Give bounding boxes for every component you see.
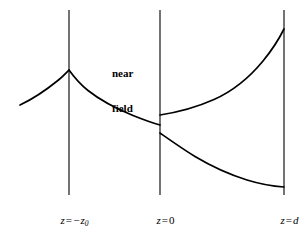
axis-label-mid-value: 0 bbox=[169, 214, 175, 226]
vertical-axis-lines bbox=[69, 10, 284, 195]
axis-label-left-subscript: 0 bbox=[85, 219, 89, 228]
figure-canvas: near field z=−z0 z=0 z=d bbox=[0, 0, 305, 239]
axis-label-z-minus-z0: z=−z0 bbox=[28, 203, 110, 239]
axis-label-right-value: d bbox=[293, 214, 299, 226]
axis-label-left-eq: = bbox=[65, 214, 73, 226]
near-field-annotation: near field bbox=[112, 44, 133, 139]
field-curves bbox=[20, 29, 284, 187]
axis-label-mid-eq: = bbox=[161, 214, 169, 226]
near-field-line-1: near bbox=[112, 68, 133, 80]
incoming-branch-curve bbox=[20, 70, 69, 105]
decaying-branch-curve bbox=[160, 133, 284, 187]
growing-branch-curve bbox=[160, 29, 284, 115]
axis-label-right-eq: = bbox=[285, 214, 293, 226]
near-field-line-2: field bbox=[112, 103, 133, 115]
axis-label-z-d: z=d bbox=[245, 203, 305, 239]
axis-label-z-0: z=0 bbox=[121, 203, 199, 239]
axis-label-left-value: −z bbox=[73, 214, 85, 226]
